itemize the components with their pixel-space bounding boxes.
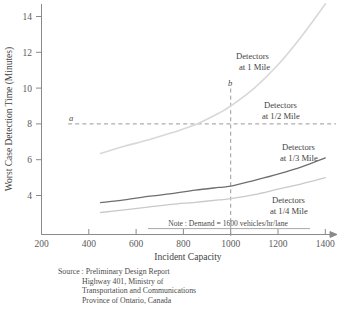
curve-label-1-mile: Detectors at 1 Mile (236, 51, 270, 72)
y-tick-label-8: 8 (27, 119, 32, 129)
curve-label-half-mile-line2: at 1/2 Mile (262, 111, 300, 121)
chart-canvas: 14 12 10 8 6 4 200 400 600 800 1000 1200… (0, 0, 349, 309)
y-tick-label-14: 14 (23, 12, 33, 22)
note-text: Note : Demand = 1600 vehicles/hr/lane (168, 219, 288, 228)
x-tick-marks (42, 229, 326, 235)
curve-label-third-mile-line2: at 1/3 Mile (280, 153, 318, 163)
y-tick-label-6: 6 (27, 155, 32, 165)
marker-a-label: a (69, 113, 73, 123)
y-tick-label-4: 4 (27, 191, 32, 201)
curve-label-third-mile: Detectors at 1/3 Mile (280, 142, 318, 163)
curve-detectors-1-mile (101, 4, 326, 153)
curve-label-1-mile-line1: Detectors (236, 51, 270, 61)
x-tick-label-1400: 1400 (316, 239, 335, 249)
curve-label-half-mile: Detectors at 1/2 Mile (262, 100, 300, 121)
source-caption: Source : Preliminary Design Report Highw… (58, 267, 196, 305)
curve-label-quarter-mile-line1: Detectors (272, 195, 306, 205)
x-tick-label-1200: 1200 (269, 239, 288, 249)
y-tick-label-10: 10 (23, 84, 33, 94)
y-tick-label-12: 12 (23, 48, 33, 58)
curve-label-half-mile-line1: Detectors (264, 100, 298, 110)
curve-label-1-mile-line2: at 1 Mile (239, 62, 270, 72)
chart-figure: 14 12 10 8 6 4 200 400 600 800 1000 1200… (0, 0, 349, 309)
x-tick-label-200: 200 (34, 239, 49, 249)
source-line-2: Highway 401, Ministry of (82, 277, 164, 286)
x-tick-label-800: 800 (176, 239, 191, 249)
x-axis-arrow (330, 232, 337, 238)
x-tick-labels: 200 400 600 800 1000 1200 1400 (34, 239, 335, 249)
y-tick-labels: 14 12 10 8 6 4 (23, 12, 33, 201)
source-line-3: Transportation and Communications (82, 286, 196, 295)
source-line-1: Source : Preliminary Design Report (58, 267, 171, 276)
curve-label-quarter-mile-line2: at 1/4 Mile (270, 206, 308, 216)
x-tick-label-600: 600 (129, 239, 144, 249)
x-axis-title: Incident Capacity (154, 252, 222, 262)
y-tick-marks (36, 17, 42, 196)
x-tick-label-1000: 1000 (221, 239, 240, 249)
curve-label-quarter-mile: Detectors at 1/4 Mile (270, 195, 308, 216)
curve-label-third-mile-line1: Detectors (282, 142, 316, 152)
marker-b-label: b (228, 78, 233, 88)
source-line-4: Province of Ontario, Canada (82, 296, 172, 305)
x-tick-label-400: 400 (82, 239, 97, 249)
y-axis-title: Worst Case Detection Time (Minutes) (4, 47, 15, 191)
